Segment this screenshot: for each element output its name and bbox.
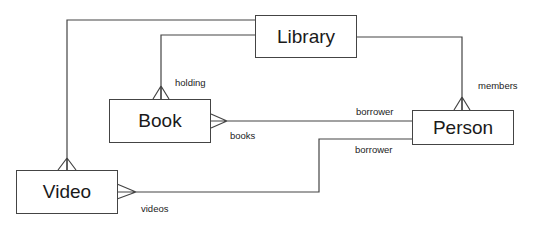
role-holding: holding bbox=[175, 77, 206, 88]
role-videos: videos bbox=[141, 203, 168, 214]
book-crowsfoot-icon bbox=[153, 86, 169, 99]
role-books: books bbox=[230, 130, 255, 141]
person-crowsfoot-icon bbox=[454, 97, 470, 110]
entity-video-label: Video bbox=[43, 181, 91, 203]
entity-person-label: Person bbox=[433, 117, 493, 139]
role-borrower-book: borrower bbox=[356, 106, 394, 117]
entity-video[interactable]: Video bbox=[16, 170, 118, 214]
video-videos-crowsfoot-icon bbox=[117, 184, 136, 199]
entity-book[interactable]: Book bbox=[109, 99, 211, 143]
book-books-crowsfoot-icon bbox=[211, 114, 227, 128]
role-borrower-video: borrower bbox=[355, 144, 393, 155]
video-crowsfoot-icon bbox=[58, 158, 76, 170]
entity-person[interactable]: Person bbox=[412, 110, 514, 145]
library-person-line bbox=[356, 37, 462, 110]
entity-book-label: Book bbox=[138, 110, 181, 132]
library-book-line bbox=[161, 35, 255, 99]
entity-library[interactable]: Library bbox=[255, 15, 357, 58]
entity-library-label: Library bbox=[277, 26, 335, 48]
role-members: members bbox=[478, 80, 518, 91]
